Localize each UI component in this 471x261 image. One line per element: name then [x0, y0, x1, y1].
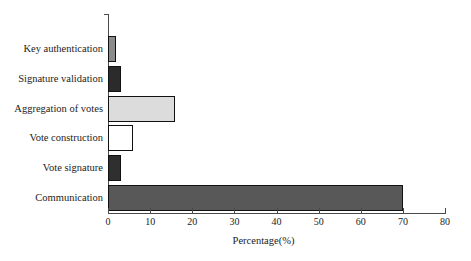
category-label: Aggregation of votes [0, 103, 103, 115]
category-label: Key authentication [0, 43, 103, 55]
x-tick-label: 70 [383, 216, 423, 228]
bar-vote-construction [108, 124, 133, 154]
x-tick-mark [150, 208, 151, 213]
bar-rect [108, 185, 403, 211]
x-tick-mark [234, 208, 235, 213]
bar-rect [108, 66, 121, 92]
x-tick-mark [192, 208, 193, 213]
x-tick-label: 20 [172, 216, 212, 228]
x-tick-label: 0 [88, 216, 128, 228]
y-axis-top-tick [104, 14, 109, 15]
bar-rect [108, 155, 121, 181]
x-tick-mark [319, 208, 320, 213]
x-tick-label: 80 [425, 216, 465, 228]
x-axis-line [108, 213, 446, 214]
x-tick-label: 50 [299, 216, 339, 228]
bar-rect [108, 125, 133, 151]
x-tick-mark [403, 208, 404, 213]
category-label: Signature validation [0, 73, 103, 85]
category-label: Vote construction [0, 132, 103, 144]
bar-vote-signature [108, 153, 121, 183]
x-axis-title: Percentage(%) [0, 234, 471, 247]
x-tick-label: 40 [257, 216, 297, 228]
bar-aggregation-of-votes [108, 94, 175, 124]
category-label: Communication [0, 192, 103, 204]
bar-key-authentication [108, 34, 116, 64]
bar-signature-validation [108, 64, 121, 94]
x-tick-label: 10 [130, 216, 170, 228]
x-tick-mark [108, 208, 109, 213]
x-tick-mark [445, 208, 446, 213]
x-tick-label: 30 [214, 216, 254, 228]
bar-rect [108, 36, 116, 62]
x-tick-mark [361, 208, 362, 213]
bar-communication [108, 183, 403, 213]
x-tick-mark [277, 208, 278, 213]
bar-chart: Key authenticationSignature validationAg… [0, 0, 471, 261]
bar-rect [108, 96, 175, 122]
category-label: Vote signature [0, 162, 103, 174]
x-tick-label: 60 [341, 216, 381, 228]
